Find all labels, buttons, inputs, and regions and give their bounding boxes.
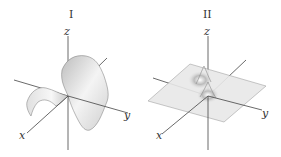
panel-2-label: II bbox=[203, 8, 212, 21]
y-axis-label: y bbox=[261, 107, 269, 120]
y-axis-label: y bbox=[123, 109, 131, 122]
saddle-right-lobe bbox=[62, 56, 109, 131]
panel-1-label: I bbox=[69, 8, 73, 21]
peak-back bbox=[188, 71, 212, 89]
panel-2: II z y x bbox=[148, 8, 269, 150]
z-axis-label: z bbox=[203, 25, 210, 38]
z-axis-label: z bbox=[63, 25, 70, 38]
figure-canvas: I z y x II z y x bbox=[0, 0, 281, 157]
panel-1: I z y x bbox=[14, 8, 131, 150]
x-axis-label: x bbox=[156, 129, 163, 142]
x-axis-label: x bbox=[19, 129, 26, 142]
